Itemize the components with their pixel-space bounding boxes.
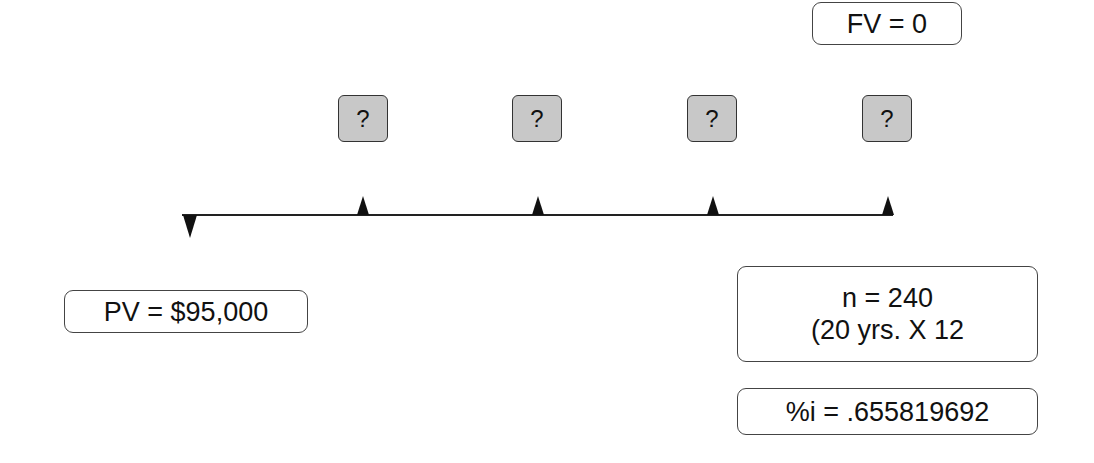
periods-box: n = 240 (20 yrs. X 12 <box>737 266 1038 362</box>
present-value-label: PV = $95,000 <box>104 296 268 328</box>
present-value-box: PV = $95,000 <box>64 290 308 333</box>
future-value-label: FV = 0 <box>847 8 927 40</box>
payment-unknown-label: ? <box>356 105 369 133</box>
payment-arrow-up-icon <box>532 196 544 215</box>
payment-box-2: ? <box>512 95 562 142</box>
payment-unknown-label: ? <box>880 105 893 133</box>
interest-rate-box: %i = .655819692 <box>737 388 1038 435</box>
payment-arrow-up-icon <box>707 196 719 215</box>
payment-unknown-label: ? <box>705 105 718 133</box>
payment-box-3: ? <box>687 95 737 142</box>
future-value-box: FV = 0 <box>812 2 962 45</box>
payment-box-4: ? <box>862 95 912 142</box>
cash-inflow-arrow-down-icon <box>183 215 197 238</box>
interest-rate-label: %i = .655819692 <box>786 396 989 428</box>
periods-label: n = 240 <box>842 282 933 314</box>
payment-arrow-up-icon <box>357 196 369 215</box>
payment-box-1: ? <box>338 95 388 142</box>
payment-arrow-up-icon <box>882 196 894 215</box>
periods-calculation: (20 yrs. X 12 <box>811 314 964 346</box>
payment-unknown-label: ? <box>530 105 543 133</box>
